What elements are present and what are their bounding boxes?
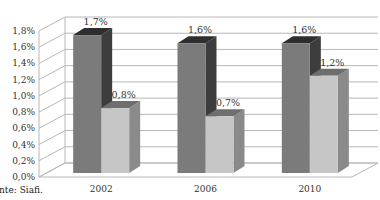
bar: [206, 109, 245, 173]
gridline-side: [39, 98, 65, 112]
data-label: 0,7%: [216, 97, 240, 108]
source-note: nte: Siafi.: [0, 185, 43, 195]
bar-side: [129, 101, 140, 173]
gridline-side: [39, 82, 65, 96]
y-tick-label: 0,6%: [12, 123, 35, 133]
x-axis-ticks: 200220062010: [90, 184, 322, 194]
x-tick-label: 2006: [194, 184, 217, 194]
bar-front: [206, 116, 234, 173]
gridline-side: [39, 131, 65, 145]
gridline-side: [39, 163, 65, 177]
y-axis-ticks: 0,0%0,2%0,4%0,6%0,8%1,0%1,2%1,4%1,6%1,8%: [12, 26, 35, 182]
gridline-side: [39, 17, 65, 31]
bar-front: [310, 76, 338, 173]
bar-front: [101, 108, 129, 173]
y-tick-label: 1,2%: [12, 75, 35, 85]
bar-side: [338, 69, 349, 173]
gridline-side: [39, 49, 65, 63]
y-tick-label: 1,8%: [12, 26, 35, 36]
x-tick-label: 2010: [298, 184, 321, 194]
bar-side: [234, 109, 245, 173]
gridline-side: [39, 66, 65, 80]
bar: [101, 101, 140, 173]
chart: 0,0%0,2%0,4%0,6%0,8%1,0%1,2%1,4%1,6%1,8%…: [0, 0, 380, 200]
gridline-side: [39, 147, 65, 161]
x-tick-label: 2002: [90, 184, 113, 194]
data-label: 1,6%: [188, 24, 212, 35]
gridline-side: [39, 114, 65, 128]
data-label: 1,2%: [320, 57, 344, 68]
bar-front: [73, 35, 101, 173]
data-label: 1,7%: [84, 16, 108, 27]
y-tick-label: 0,8%: [12, 107, 35, 117]
y-tick-label: 0,4%: [12, 140, 35, 150]
bar: [310, 69, 349, 173]
y-tick-label: 0,2%: [12, 156, 35, 166]
y-tick-label: 0,0%: [12, 172, 35, 182]
gridline-side: [39, 33, 65, 47]
y-tick-label: 1,6%: [12, 42, 35, 52]
bar-front: [178, 43, 206, 173]
data-label: 0,8%: [112, 89, 136, 100]
bar-front: [282, 43, 310, 173]
data-label: 1,6%: [292, 24, 316, 35]
y-tick-label: 1,4%: [12, 58, 35, 68]
y-tick-label: 1,0%: [12, 91, 35, 101]
